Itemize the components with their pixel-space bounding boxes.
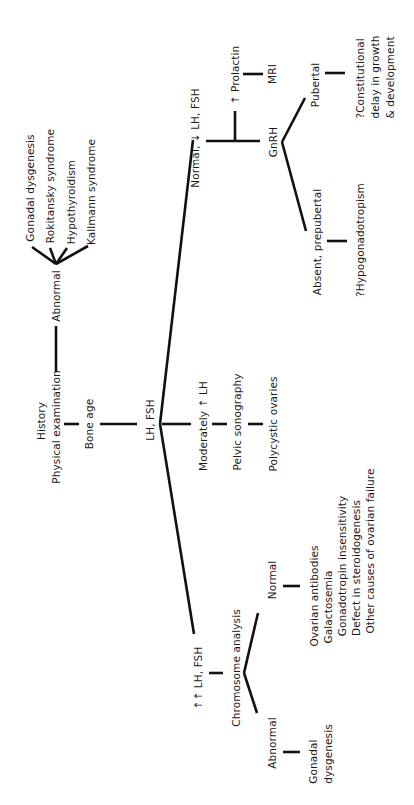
very-high-lh-fsh-label: ↑↑ LH, FSH (193, 647, 204, 710)
chromosome-to-normal-line (244, 613, 258, 673)
gnrh-label: GnRH (268, 127, 279, 157)
gonadal-dysgenesis-outcome-label: Gonadal dysgenesis (306, 724, 336, 783)
pelvic-sonography-label: Pelvic sonography (232, 373, 243, 470)
flowchart-diagram: Gonadal dysgenesis Rokitansky syndrome H… (0, 0, 414, 805)
cause-defect-in-steroidogenesis: Defect in steroidogenesis (351, 500, 362, 636)
pubertal-label: Pubertal (310, 63, 321, 108)
constitutional-delay-label: ?Constitutional delay in growth & develo… (353, 36, 398, 119)
normal-low-lh-fsh-label: Normal, ↓ LH, FSH (190, 88, 201, 187)
outcome-kallmann-syndrome: Kallmann syndrome (86, 139, 97, 245)
cause-other-ovarian-failure: Other causes of ovarian failure (365, 468, 376, 633)
hypogonadotropism-label: ?Hypogonadotropism (355, 183, 366, 297)
cause-gonadotropin-insensitivity: Gonadotropin insensitivity (337, 496, 348, 637)
lhfsh-to-high-line (160, 424, 194, 634)
moderately-high-lh-label: Moderately ↑ LH (198, 381, 209, 471)
absent-prepubertal-label: Absent, prepubertal (312, 189, 323, 296)
high-prolactin-label: ↑ Prolactin (230, 46, 241, 105)
outcome-hypothyroidism: Hypothyroidism (66, 160, 77, 244)
chromosome-analysis-label: Chromosome analysis (231, 609, 242, 726)
cause-galactosemia: Galactosemia (323, 571, 334, 644)
physical-examination-label: Physical examination (51, 370, 62, 483)
outcome-rokitansky-syndrome: Rokitansky syndrome (45, 129, 56, 243)
cause-ovarian-antibodies: Ovarian antibodies (309, 545, 320, 646)
history-label: History (36, 402, 47, 440)
abnormal-exam-label: Abnormal (51, 270, 62, 321)
mri-label: MRI (267, 64, 278, 84)
gnrh-to-pubertal-line (282, 98, 305, 142)
outcome-gonadal-dysgenesis: Gonadal dysgenesis (25, 134, 36, 241)
lh-fsh-label: LH, FSH (145, 399, 156, 441)
gnrh-to-prepubertal-line (282, 142, 306, 231)
chromosome-normal-label: Normal (267, 561, 278, 600)
chromosome-to-abnormal-line (244, 673, 257, 713)
chromosome-abnormal-label: Abnormal (267, 717, 278, 768)
polycystic-ovaries-label: Polycystic ovaries (268, 376, 279, 471)
bone-age-label: Bone age (84, 399, 95, 449)
